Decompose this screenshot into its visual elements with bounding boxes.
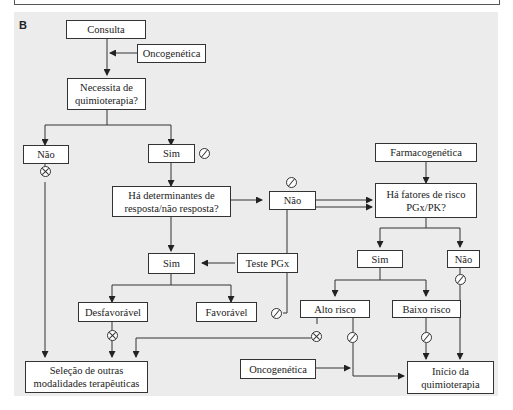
node-alto-risco: Alto risco — [300, 300, 370, 318]
node-consulta: Consulta — [66, 20, 146, 39]
node-oncogenetica-top: Oncogenética — [137, 44, 206, 63]
node-fatores-risco-pgx-pk: Há fatores de risco PGx/PK? — [375, 183, 477, 218]
node-nao-left: Não — [23, 145, 69, 164]
node-sim-right: Sim — [357, 250, 403, 268]
node-nao-mid: Não — [269, 191, 316, 210]
node-necessita-quimioterapia: Necessita de quimioterapia? — [67, 78, 146, 110]
node-sim-mid: Sim — [148, 253, 195, 274]
node-determinantes-resposta: Há determinantes de resposta/não respost… — [112, 186, 231, 217]
cross-circle-icon — [40, 166, 51, 177]
check-circle-icon — [347, 332, 358, 343]
check-circle-icon — [455, 274, 466, 285]
node-oncogenetica-bottom: Oncogenética — [240, 359, 316, 379]
cross-circle-icon — [107, 330, 118, 341]
check-circle-icon — [421, 332, 432, 343]
node-favoravel: Favorável — [196, 302, 257, 322]
node-sim-top: Sim — [148, 144, 195, 163]
node-farmacogenetica: Farmacogenética — [375, 143, 477, 162]
cross-circle-icon — [311, 331, 322, 342]
node-teste-pgx: Teste PGx — [237, 253, 298, 273]
check-circle-icon — [286, 177, 297, 188]
check-circle-icon — [271, 308, 282, 319]
node-baixo-risco: Baixo risco — [392, 300, 461, 318]
check-circle-icon — [199, 148, 210, 159]
node-desfavoravel: Desfavorável — [78, 302, 148, 322]
node-nao-right: Não — [447, 250, 480, 268]
node-selecao-outras-modalidades: Seleção de outras modalidades terapêutic… — [25, 361, 148, 393]
node-inicio-quimioterapia: Início da quimioterapia — [407, 361, 494, 394]
